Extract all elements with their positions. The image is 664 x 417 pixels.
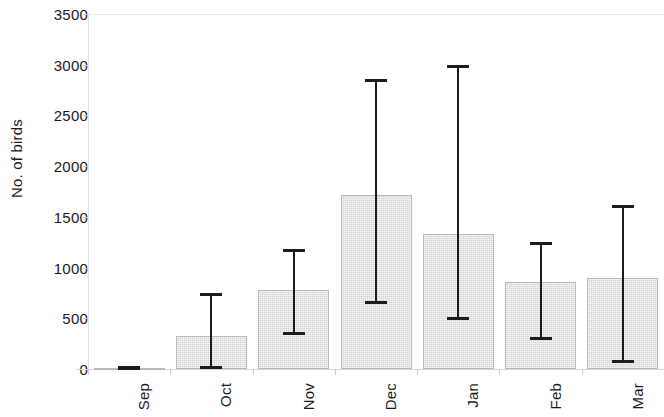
x-tick-label-dec: Dec xyxy=(382,383,399,410)
x-tick-mark xyxy=(170,369,171,375)
error-bar-cap-top-mar xyxy=(612,205,634,208)
y-tick-label: 1500 xyxy=(10,208,88,225)
error-bar-stem-dec xyxy=(375,79,377,304)
error-bar-cap-bottom-dec xyxy=(365,301,387,304)
error-bar-cap-bottom-mar xyxy=(612,360,634,363)
x-tick-mark xyxy=(417,369,418,375)
error-bar-cap-bottom-jan xyxy=(447,317,469,320)
x-tick-mark xyxy=(499,369,500,375)
error-bar-stem-jan xyxy=(457,65,459,321)
x-tick-label-jan: Jan xyxy=(464,383,481,408)
error-bar-cap-top-dec xyxy=(365,79,387,82)
x-tick-label-feb: Feb xyxy=(547,383,564,409)
plot-top-border xyxy=(88,14,664,15)
x-tick-mark xyxy=(253,369,254,375)
x-tick-label-mar: Mar xyxy=(629,383,646,409)
y-axis-ticks: 0500100015002000250030003500 xyxy=(0,0,88,417)
x-tick-label-oct: Oct xyxy=(217,383,234,407)
error-bar-cap-top-oct xyxy=(200,293,222,296)
x-tick-label-sep: Sep xyxy=(135,383,152,410)
error-bar-cap-top-feb xyxy=(530,242,552,245)
bar-chart: No. of birds 050010001500200025003000350… xyxy=(0,0,664,417)
y-tick-label: 3000 xyxy=(10,56,88,73)
error-bar-cap-bottom-feb xyxy=(530,337,552,340)
y-tick-label: 2500 xyxy=(10,107,88,124)
error-bar-cap-top-nov xyxy=(283,249,305,252)
x-tick-mark xyxy=(88,369,89,375)
x-tick-label-nov: Nov xyxy=(300,383,317,410)
error-bar-stem-nov xyxy=(293,249,295,334)
y-tick-label: 2000 xyxy=(10,158,88,175)
error-bar-stem-mar xyxy=(622,205,624,363)
y-tick-label: 1000 xyxy=(10,259,88,276)
error-bar-cap-bottom-sep xyxy=(118,366,140,369)
x-tick-mark xyxy=(582,369,583,375)
error-bar-stem-oct xyxy=(210,293,212,369)
error-bar-cap-bottom-nov xyxy=(283,332,305,335)
x-tick-mark xyxy=(335,369,336,375)
error-bar-cap-bottom-oct xyxy=(200,366,222,369)
y-tick-label: 3500 xyxy=(10,6,88,23)
plot-area xyxy=(88,14,664,369)
y-tick-label: 500 xyxy=(10,310,88,327)
error-bar-stem-feb xyxy=(540,242,542,340)
error-bar-cap-top-jan xyxy=(447,65,469,68)
